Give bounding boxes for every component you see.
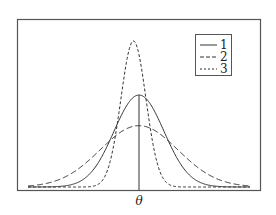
legend: 123: [196, 35, 232, 77]
x-tick-label-theta: θ: [135, 194, 143, 208]
legend-label-3: 3: [220, 62, 228, 76]
chart: θ 123: [0, 0, 276, 215]
